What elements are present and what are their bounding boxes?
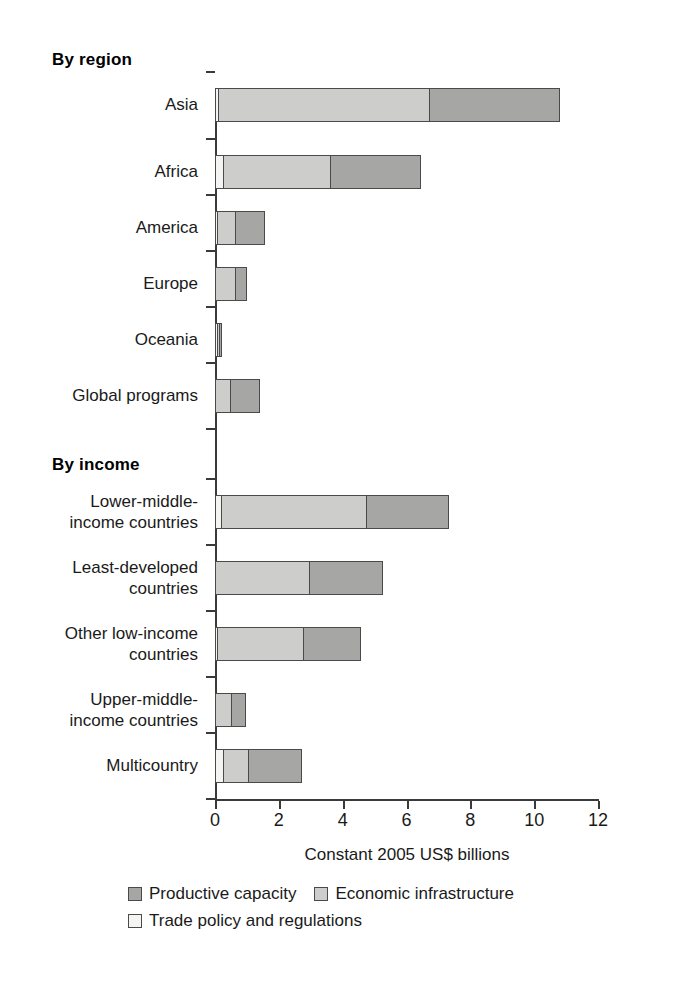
category-label-asia: Asia [38, 94, 203, 115]
category-label-global-programs: Global programs [38, 385, 203, 406]
x-tick-label-4: 4 [338, 810, 348, 831]
x-tick-mark-0 [215, 801, 217, 809]
x-axis-title: Constant 2005 US$ billions [215, 845, 599, 865]
category-label-line: Asia [38, 94, 198, 115]
x-tick-label-2: 2 [274, 810, 284, 831]
bar-segment-prod [303, 627, 361, 661]
legend-item-econ[interactable]: Economic infrastructure [314, 884, 514, 904]
x-tick-mark-10 [534, 801, 536, 809]
x-tick-mark-4 [343, 801, 345, 809]
category-label-line: America [38, 217, 198, 238]
bar-segment-econ [215, 561, 310, 595]
category-label-america: America [38, 217, 203, 238]
bar-segment-econ [218, 88, 430, 122]
stacked-bar-chart: By region By income 024681012 AsiaAfrica… [0, 0, 684, 999]
y-tick-mark [206, 306, 215, 308]
bar-europe [215, 267, 246, 301]
y-tick-mark [206, 732, 215, 734]
bar-global-programs [215, 379, 259, 413]
x-tick-label-0: 0 [210, 810, 220, 831]
category-label-africa: Africa [38, 161, 203, 182]
y-tick-mark [206, 676, 215, 678]
x-tick-mark-8 [470, 801, 472, 809]
category-label-line: income countries [38, 710, 198, 731]
category-label-line: Multicountry [38, 755, 198, 776]
bar-america [215, 211, 264, 245]
bar-segment-econ [217, 627, 304, 661]
bar-segment-prod [366, 495, 449, 529]
category-label-line: Upper-middle- [38, 689, 198, 710]
bar-segment-prod [248, 749, 302, 783]
category-label-line: countries [38, 578, 198, 599]
x-tick-mark-12 [598, 801, 600, 809]
bar-segment-econ [215, 267, 236, 301]
legend-swatch-icon-econ [314, 887, 328, 901]
bar-segment-econ [223, 749, 249, 783]
category-label-line: income countries [38, 512, 198, 533]
bar-segment-prod [235, 211, 265, 245]
x-tick-label-6: 6 [401, 810, 411, 831]
x-tick-mark-2 [279, 801, 281, 809]
y-tick-mark [206, 362, 215, 364]
bar-segment-econ [221, 495, 367, 529]
y-tick-mark [206, 194, 215, 196]
bar-segment-prod [219, 323, 222, 357]
y-tick-mark [206, 478, 215, 480]
bar-multicountry [215, 749, 301, 783]
category-label-line: Least-developed [38, 557, 198, 578]
bar-segment-prod [235, 267, 247, 301]
bar-other-low-income-countries [215, 627, 360, 661]
x-tick-label-12: 12 [588, 810, 608, 831]
bar-africa [215, 155, 420, 189]
legend-row: Productive capacityEconomic infrastructu… [128, 884, 578, 904]
group-heading-by-income: By income [52, 455, 140, 475]
bar-segment-prod [309, 561, 383, 595]
category-label-line: Lower-middle- [38, 491, 198, 512]
legend-label: Productive capacity [149, 884, 296, 904]
category-label-line: Africa [38, 161, 198, 182]
bar-lower-middle-income-countries [215, 495, 448, 529]
y-tick-mark [206, 798, 215, 800]
bar-segment-econ [215, 379, 231, 413]
bar-segment-prod [429, 88, 560, 122]
y-tick-mark [206, 610, 215, 612]
x-tick-mark-6 [407, 801, 409, 809]
category-label-least-developed-countries: Least-developedcountries [38, 557, 203, 599]
category-label-line: Other low-income [38, 623, 198, 644]
category-label-line: countries [38, 644, 198, 665]
category-label-multicountry: Multicountry [38, 755, 203, 776]
category-label-line: Global programs [38, 385, 198, 406]
legend-swatch-icon-trade [128, 914, 142, 928]
bar-segment-econ [217, 211, 236, 245]
bar-upper-middle-income-countries [215, 693, 245, 727]
category-label-lower-middle-income-countries: Lower-middle-income countries [38, 491, 203, 533]
y-tick-mark [206, 71, 215, 73]
legend-item-trade[interactable]: Trade policy and regulations [128, 911, 362, 931]
category-label-line: Oceania [38, 329, 198, 350]
y-tick-mark [206, 250, 215, 252]
y-tick-mark [206, 138, 215, 140]
category-label-other-low-income-countries: Other low-incomecountries [38, 623, 203, 665]
y-tick-mark [206, 428, 215, 430]
bar-segment-econ [223, 155, 331, 189]
chart-legend: Productive capacityEconomic infrastructu… [128, 884, 578, 938]
bar-segment-prod [231, 693, 246, 727]
x-tick-label-8: 8 [465, 810, 475, 831]
category-label-line: Europe [38, 273, 198, 294]
bar-oceania [215, 323, 221, 357]
legend-row: Trade policy and regulations [128, 911, 578, 931]
bar-asia [215, 88, 559, 122]
bar-segment-prod [330, 155, 421, 189]
group-heading-by-region: By region [52, 50, 132, 70]
legend-item-prod[interactable]: Productive capacity [128, 884, 296, 904]
category-label-europe: Europe [38, 273, 203, 294]
bar-segment-econ [215, 693, 232, 727]
bar-least-developed-countries [215, 561, 382, 595]
legend-label: Economic infrastructure [335, 884, 514, 904]
y-tick-mark [206, 544, 215, 546]
x-tick-label-10: 10 [524, 810, 544, 831]
bar-segment-prod [230, 379, 260, 413]
category-label-oceania: Oceania [38, 329, 203, 350]
legend-swatch-icon-prod [128, 887, 142, 901]
legend-label: Trade policy and regulations [149, 911, 362, 931]
